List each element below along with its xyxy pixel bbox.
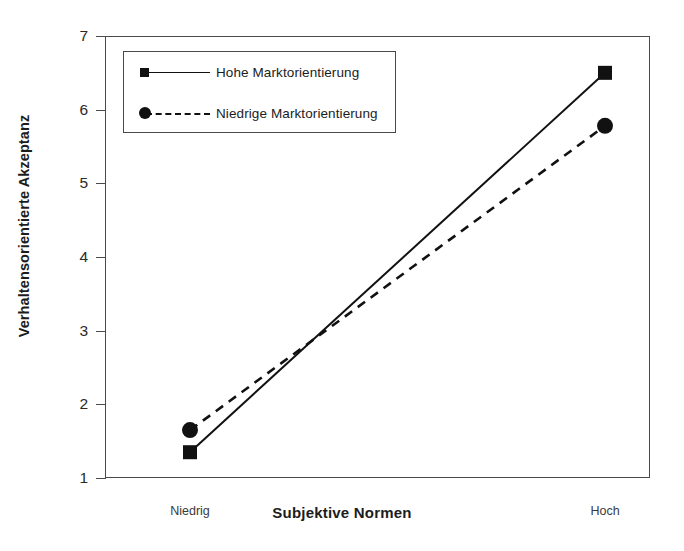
dashed-line-icon xyxy=(146,113,210,115)
y-axis-tick-mark xyxy=(96,36,106,37)
y-axis-tick-mark xyxy=(96,478,106,479)
y-axis-tick-mark xyxy=(96,404,106,405)
y-axis-tick-label: 7 xyxy=(58,28,88,44)
legend-item-niedrige-marktorientierung: Niedrige Marktorientierung xyxy=(124,93,395,134)
y-axis-tick-mark xyxy=(96,257,106,258)
y-axis-label: Verhaltensorientierte Akzeptanz xyxy=(16,6,32,446)
y-axis-tick-mark xyxy=(96,331,106,332)
solid-line-icon xyxy=(146,72,210,73)
y-axis-tick-label: 5 xyxy=(58,176,88,192)
chart-legend: Hohe Marktorientierung Niedrige Marktori… xyxy=(123,51,396,133)
y-axis-tick-label: 1 xyxy=(58,470,88,486)
y-axis-tick-mark xyxy=(96,183,106,184)
square-marker-icon xyxy=(140,68,149,77)
y-axis-tick-label: 6 xyxy=(58,102,88,118)
y-axis-tick-mark xyxy=(96,110,106,111)
chart-figure: 7654321 Verhaltensorientierte Akzeptanz … xyxy=(0,0,684,551)
legend-label: Niedrige Marktorientierung xyxy=(216,106,378,121)
legend-key-solid-square xyxy=(138,63,216,83)
legend-key-dashed-circle xyxy=(138,104,216,124)
y-axis-tick-label: 2 xyxy=(58,397,88,413)
y-axis-tick-label: 4 xyxy=(58,249,88,265)
x-axis-title: Subjektive Normen xyxy=(0,504,684,521)
y-axis-tick-label: 3 xyxy=(58,323,88,339)
legend-label: Hohe Marktorientierung xyxy=(216,65,359,80)
legend-item-hohe-marktorientierung: Hohe Marktorientierung xyxy=(124,52,395,93)
circle-marker-icon xyxy=(139,107,151,119)
